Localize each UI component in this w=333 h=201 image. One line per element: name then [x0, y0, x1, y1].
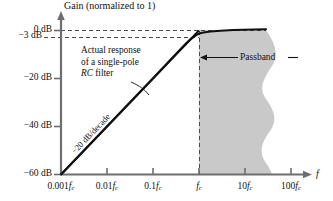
x-tick-2-c: c: [159, 184, 162, 191]
x-tick-0-c: c: [71, 184, 74, 191]
y-axis-title: Gain (normalized to 1): [64, 1, 155, 11]
x-tick-4-c: c: [250, 184, 253, 191]
actual-response-annotation: Actual response of a single-pole RC filt…: [81, 45, 141, 80]
x-tick-label-100fc: 100fc: [269, 182, 313, 192]
annotation-line-3: RC filter: [81, 68, 141, 80]
x-tick-2-num: 0.1: [144, 181, 156, 191]
y-tick-label-minus-20db: −20 dB: [0, 73, 52, 83]
x-tick-1-num: 0.01: [96, 181, 113, 191]
passband-label: Passband: [240, 53, 275, 63]
x-tick-0-num: 0.001: [47, 181, 68, 191]
annotation-rc-italic: RC: [81, 68, 93, 78]
x-axis-title: f: [316, 169, 319, 179]
x-tick-3-c: c: [199, 184, 202, 191]
x-tick-label-fc: fc: [186, 182, 212, 192]
x-tick-label-0.01fc: 0.01fc: [85, 182, 129, 192]
y-tick-label-minus-60db: −60 dB: [0, 169, 52, 179]
y-tick-label-0db: 0 dB: [8, 25, 52, 35]
x-tick-label-0.001fc: 0.001fc: [37, 182, 85, 192]
x-tick-4-num: 10: [237, 181, 247, 191]
x-tick-5-num: 100: [281, 181, 295, 191]
annotation-filter-word: filter: [93, 68, 113, 78]
x-tick-5-c: c: [298, 184, 301, 191]
x-tick-label-10fc: 10fc: [226, 182, 264, 192]
x-tick-label-0.1fc: 0.1fc: [133, 182, 173, 192]
annotation-line-2: of a single-pole: [81, 57, 141, 69]
annotation-line-1: Actual response: [81, 45, 141, 57]
y-tick-label-minus-40db: −40 dB: [0, 121, 52, 131]
x-tick-1-c: c: [115, 184, 118, 191]
